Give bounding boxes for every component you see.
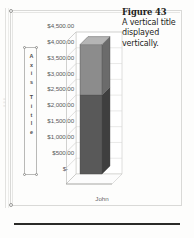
axis-title-handle-top-left[interactable] xyxy=(23,46,27,50)
axis-title-letter: e xyxy=(25,128,38,137)
axis-title-text: A x i s T i t l e xyxy=(25,52,38,136)
axis-title-letter: x xyxy=(25,61,38,70)
axis-tick-label-zero: $- xyxy=(63,165,68,172)
axis-tick-label: $500.00 xyxy=(52,149,74,156)
margin-artifact-text: ≡≡≡ xyxy=(2,98,6,108)
page-margin-line-secondary xyxy=(8,8,9,208)
axis-title-letter: i xyxy=(25,69,38,78)
page-bottom-rule xyxy=(14,223,180,225)
chart-series-lower xyxy=(80,87,110,174)
figure-caption-label: Figure 43 xyxy=(122,7,192,17)
axis-tick-label: $2,500.00 xyxy=(47,85,74,92)
axis-tick-label: $1,000.00 xyxy=(47,133,74,140)
figure-caption-description: A vertical title displayed vertically. xyxy=(122,18,192,49)
axis-title-space xyxy=(25,86,38,93)
axis-title-selection-box[interactable]: A x i s T i t l e xyxy=(24,47,37,175)
axis-title-letter: l xyxy=(25,119,38,128)
axis-tick-label: $4,000.00 xyxy=(47,38,74,45)
axis-title-letter: i xyxy=(25,102,38,111)
axis-title-letter: s xyxy=(25,78,38,87)
axis-title-letter: A xyxy=(25,52,38,61)
axis-tick-label: $2,000.00 xyxy=(47,101,74,108)
axis-tick-label: $1,500.00 xyxy=(47,117,74,124)
axis-tick-label: $3,000.00 xyxy=(47,70,74,77)
axis-title-letter: t xyxy=(25,111,38,120)
axis-tick-label: $3,500.00 xyxy=(47,54,74,61)
axis-title-letter: T xyxy=(25,93,38,102)
chart-series-upper xyxy=(80,37,110,96)
figure-caption: Figure 43 A vertical title displayed ver… xyxy=(122,7,192,49)
chart-category-label: John xyxy=(72,195,132,202)
axis-tick-label: $4,500.00 xyxy=(47,22,74,29)
